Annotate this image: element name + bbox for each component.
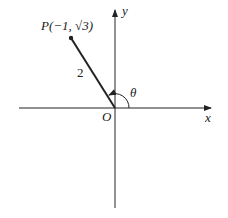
origin-label: O xyxy=(102,109,112,124)
point-p xyxy=(69,36,73,40)
angle-label: θ xyxy=(130,85,137,100)
length-label: 2 xyxy=(77,65,84,80)
angle-arc xyxy=(109,94,129,108)
x-axis-label: x xyxy=(204,110,211,125)
unit-circle-diagram: P(−1, √3) 2 θ O x y xyxy=(0,0,228,218)
y-axis-label: y xyxy=(120,3,128,18)
point-label: P(−1, √3) xyxy=(40,18,93,33)
